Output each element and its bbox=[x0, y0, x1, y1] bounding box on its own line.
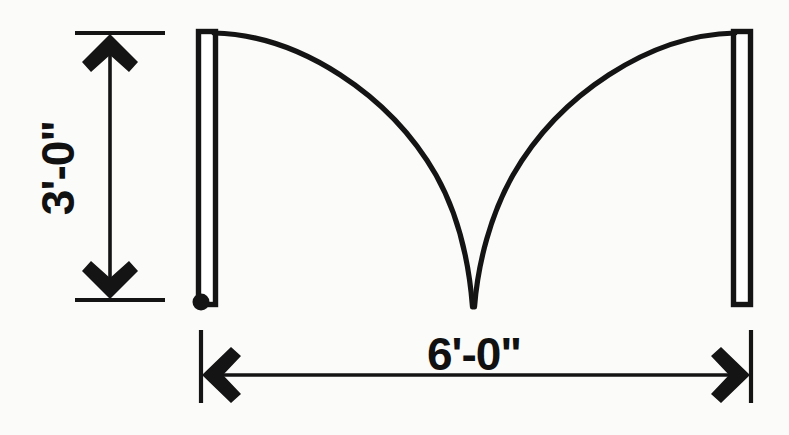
left-door-group bbox=[193, 32, 216, 311]
left-door-swing-arc bbox=[214, 33, 473, 307]
horizontal-dimension-group: 6'-0" bbox=[201, 328, 751, 403]
drawing-canvas: 3'-0" bbox=[0, 0, 789, 435]
right-door-swing-arc bbox=[475, 33, 736, 307]
left-door-leaf bbox=[199, 32, 216, 305]
horizontal-dimension-label: 6'-0" bbox=[427, 328, 521, 380]
right-door-group bbox=[734, 32, 751, 305]
door-swing-diagram: 3'-0" bbox=[0, 0, 789, 435]
hinge-pivot-point bbox=[193, 294, 210, 311]
vertical-dimension-group: 3'-0" bbox=[32, 33, 165, 300]
right-door-leaf bbox=[734, 32, 751, 305]
vertical-dimension-label: 3'-0" bbox=[32, 121, 84, 215]
swing-arcs-group bbox=[214, 33, 735, 307]
